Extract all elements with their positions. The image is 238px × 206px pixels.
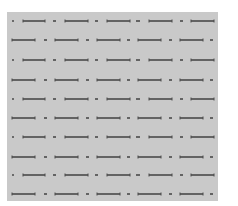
range-line [191,174,214,177]
range-line [107,174,130,177]
range-line [23,98,45,101]
range-line [138,39,161,42]
range-line [107,20,130,23]
range-line [12,39,35,42]
range-line [65,20,88,23]
range-line [191,136,214,139]
range-line [55,193,78,196]
range-line [23,136,45,139]
range-line [55,156,78,159]
range-line [97,117,120,120]
range-line [12,156,35,159]
range-line [191,59,214,62]
dash-pattern [0,0,238,206]
range-line [180,193,203,196]
range-line [97,156,120,159]
range-line [12,79,35,82]
range-line [138,79,161,82]
range-line [107,98,130,101]
range-line [180,156,203,159]
range-line [65,174,88,177]
range-line [23,20,45,23]
range-line [55,79,78,82]
range-line [65,98,88,101]
range-line [65,136,88,139]
range-line [149,59,172,62]
range-line [97,39,120,42]
range-line [191,98,214,101]
range-line [55,39,78,42]
range-line [138,117,161,120]
range-line [23,174,45,177]
range-line [180,39,203,42]
range-line [138,156,161,159]
range-line [149,98,172,101]
range-line [149,174,172,177]
range-line [191,20,214,23]
range-line [23,59,45,62]
range-line [97,79,120,82]
range-line [180,117,203,120]
range-line [149,20,172,23]
range-line [107,59,130,62]
range-line [12,117,35,120]
range-line [107,136,130,139]
range-line [97,193,120,196]
range-line [65,59,88,62]
range-line [180,79,203,82]
range-line [55,117,78,120]
range-line [138,193,161,196]
range-line [12,193,35,196]
range-line [149,136,172,139]
